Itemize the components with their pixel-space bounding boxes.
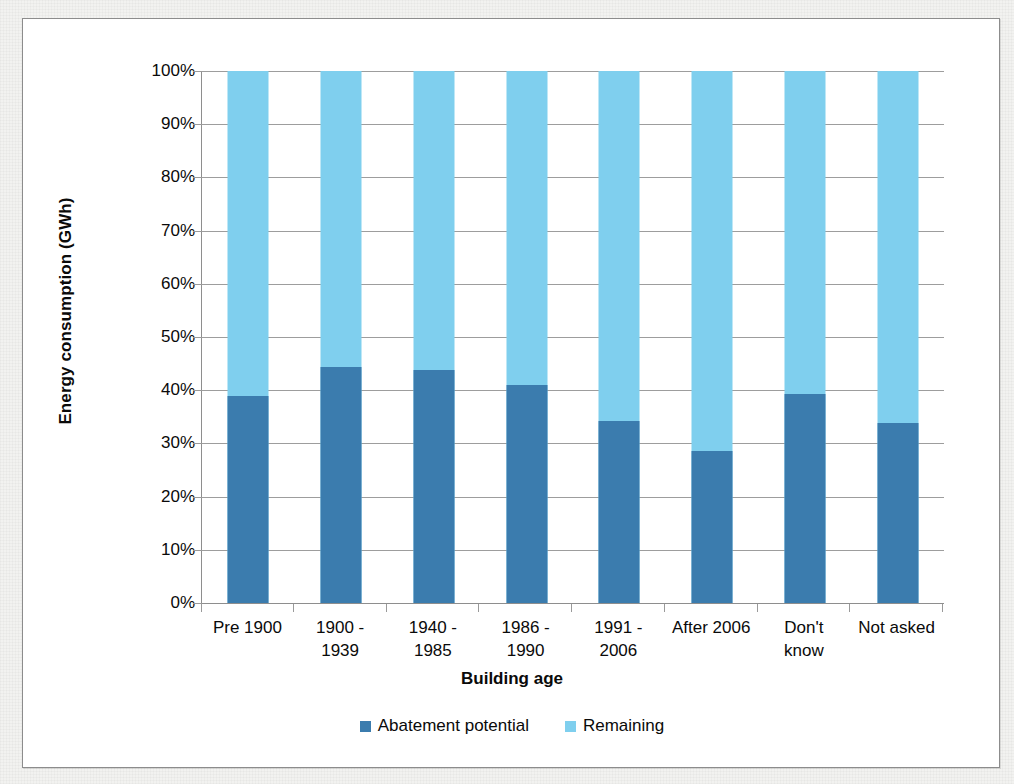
x-axis-tick-label: 1900 - 1939 <box>294 617 387 663</box>
y-axis-tick-label: 90% <box>161 114 195 134</box>
y-axis-tick-mark <box>193 390 202 391</box>
x-axis-tick-label: 1940 - 1985 <box>387 617 480 663</box>
y-axis-tick-label: 80% <box>161 167 195 187</box>
x-axis-tick-mark <box>201 604 294 612</box>
y-axis-tick-mark <box>193 231 202 232</box>
y-axis-tick-label: 20% <box>161 487 195 507</box>
stacked-bar[interactable] <box>506 71 547 603</box>
x-axis-title: Building age <box>23 669 1001 689</box>
bar-slot <box>851 71 944 603</box>
bar-segment-abatement-potential[interactable] <box>506 385 547 603</box>
bar-segment-abatement-potential[interactable] <box>877 423 918 603</box>
y-axis-title: Energy consumption (GWh) <box>56 101 76 521</box>
bar-series-group <box>202 71 944 603</box>
chart-legend: Abatement potentialRemaining <box>23 716 1001 736</box>
y-axis-tick-label: 70% <box>161 221 195 241</box>
chart-frame: Energy consumption (GWh) 100%90%80%70%60… <box>22 18 1000 768</box>
y-axis-tick-label: 10% <box>161 540 195 560</box>
y-axis-tick-labels: 100%90%80%70%60%50%40%30%20%10%0% <box>125 71 195 603</box>
x-axis-tick-mark <box>665 604 758 612</box>
x-axis-tick-label: Pre 1900 <box>201 617 294 663</box>
x-axis-tick-mark <box>850 604 943 612</box>
bar-segment-abatement-potential[interactable] <box>413 370 454 603</box>
y-axis-tick-mark <box>193 443 202 444</box>
x-axis-tick-label: Not asked <box>850 617 943 663</box>
y-axis-tick-mark <box>193 497 202 498</box>
stacked-bar[interactable] <box>877 71 918 603</box>
stacked-bar[interactable] <box>599 71 640 603</box>
x-axis-tick-mark <box>479 604 572 612</box>
plot-wrapper: 100%90%80%70%60%50%40%30%20%10%0% Pre 19… <box>201 71 943 615</box>
y-axis-tick-mark <box>193 284 202 285</box>
legend-swatch-icon <box>360 721 371 732</box>
stacked-bar[interactable] <box>692 71 733 603</box>
x-axis-tick-mark <box>387 604 480 612</box>
x-axis-ticks <box>201 604 943 612</box>
legend-item[interactable]: Remaining <box>565 716 664 736</box>
bar-slot <box>388 71 481 603</box>
y-axis-tick-mark <box>193 71 202 72</box>
stacked-bar[interactable] <box>228 71 269 603</box>
y-axis-tick-label: 30% <box>161 433 195 453</box>
bar-slot <box>202 71 295 603</box>
y-axis-tick-mark <box>193 124 202 125</box>
y-axis-tick-mark <box>193 337 202 338</box>
y-axis-tick-label: 100% <box>152 61 195 81</box>
plot-area <box>201 71 944 604</box>
bar-slot <box>759 71 852 603</box>
x-axis-tick-label: Don't know <box>758 617 851 663</box>
y-axis-tick-label: 0% <box>170 593 195 613</box>
x-axis-tick-label: 1986 - 1990 <box>479 617 572 663</box>
bar-segment-abatement-potential[interactable] <box>599 421 640 603</box>
bar-slot <box>295 71 388 603</box>
stacked-bar[interactable] <box>321 71 362 603</box>
legend-item[interactable]: Abatement potential <box>360 716 529 736</box>
legend-label: Remaining <box>583 716 664 736</box>
bar-slot <box>480 71 573 603</box>
y-axis-tick-mark <box>193 177 202 178</box>
bar-segment-abatement-potential[interactable] <box>692 451 733 603</box>
stacked-bar[interactable] <box>413 71 454 603</box>
x-axis-tick-label: After 2006 <box>665 617 758 663</box>
bar-segment-abatement-potential[interactable] <box>784 394 825 603</box>
legend-label: Abatement potential <box>378 716 529 736</box>
y-axis-tick-label: 50% <box>161 327 195 347</box>
bar-slot <box>573 71 666 603</box>
stacked-bar[interactable] <box>784 71 825 603</box>
x-axis-tick-mark <box>294 604 387 612</box>
legend-swatch-icon <box>565 721 576 732</box>
y-axis-tick-label: 40% <box>161 380 195 400</box>
x-axis-tick-mark <box>758 604 851 612</box>
y-axis-tick-label: 60% <box>161 274 195 294</box>
y-axis-tick-mark <box>193 550 202 551</box>
bar-segment-abatement-potential[interactable] <box>321 367 362 603</box>
x-axis-tick-label: 1991 - 2006 <box>572 617 665 663</box>
x-axis-tick-mark <box>572 604 665 612</box>
bar-slot <box>666 71 759 603</box>
bar-segment-abatement-potential[interactable] <box>228 396 269 603</box>
x-axis-tick-labels: Pre 19001900 - 19391940 - 19851986 - 199… <box>201 617 943 663</box>
